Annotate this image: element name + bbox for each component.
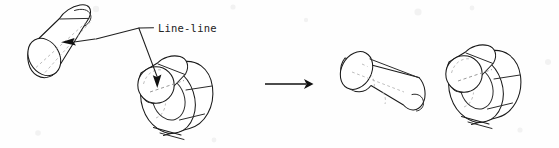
leader-branch-cylinder [96,28,139,39]
diagram-canvas: Line-line [0,0,559,148]
stepped-hub-after [440,45,521,130]
constraint-label: Line-line [158,22,217,34]
stepped-hub-before [132,56,213,141]
peg-cylinder-after [334,46,425,111]
diagram-vector-layer: Line-line [0,0,559,148]
peg-cylinder-before [21,5,95,82]
result-arrow [265,79,314,89]
